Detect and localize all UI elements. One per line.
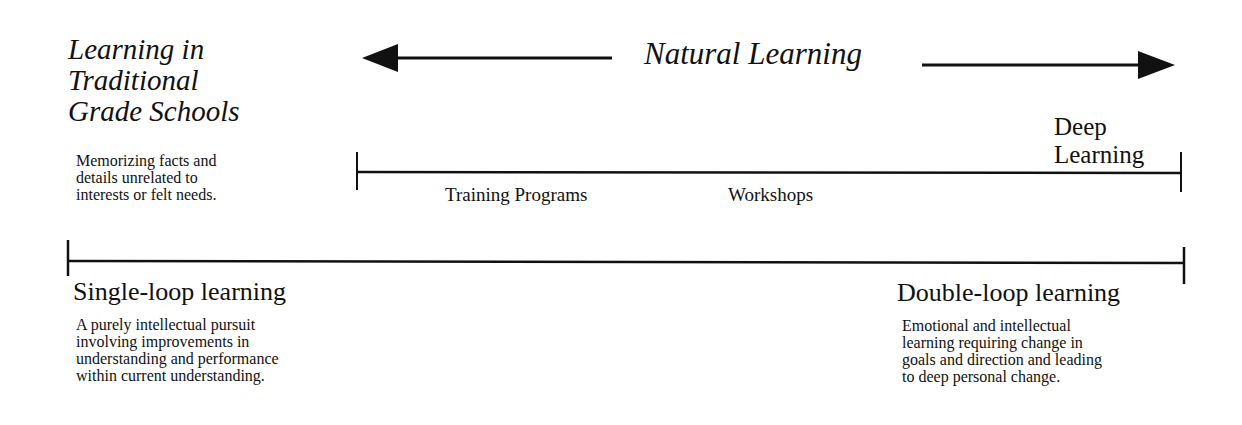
- description-line: learning requiring change in: [902, 334, 1102, 351]
- arrow-right-icon: [922, 51, 1175, 79]
- arrow-left-icon: [362, 44, 612, 72]
- traditional-description: Memorizing facts and details unrelated t…: [76, 152, 216, 203]
- traditional-title-line: Traditional: [68, 65, 240, 96]
- description-line: Memorizing facts and: [76, 152, 216, 169]
- description-line: understanding and performance: [76, 350, 279, 367]
- traditional-title-line: Learning in: [68, 34, 240, 65]
- single-loop-title: Single-loop learning: [73, 278, 286, 306]
- marker-training-programs: Training Programs: [445, 184, 587, 205]
- description-line: involving improvements in: [76, 333, 279, 350]
- description-line: interests or felt needs.: [76, 186, 216, 203]
- description-line: goals and direction and leading: [902, 351, 1102, 368]
- description-line: to deep personal change.: [902, 368, 1102, 385]
- traditional-title: Learning in Traditional Grade Schools: [68, 34, 240, 127]
- natural-learning-label: Natural Learning: [644, 38, 862, 69]
- marker-workshops: Workshops: [728, 184, 813, 205]
- description-line: details unrelated to: [76, 169, 216, 186]
- description-line: Emotional and intellectual: [902, 317, 1102, 334]
- single-loop-description: A purely intellectual pursuit involving …: [76, 316, 279, 384]
- deep-learning-label: Deep Learning: [1054, 113, 1144, 169]
- description-line: A purely intellectual pursuit: [76, 316, 279, 333]
- deep-learning-line: Learning: [1054, 141, 1144, 169]
- description-line: within current understanding.: [76, 367, 279, 384]
- traditional-title-line: Grade Schools: [68, 96, 240, 127]
- double-loop-description: Emotional and intellectual learning requ…: [902, 317, 1102, 385]
- double-loop-title: Double-loop learning: [897, 279, 1120, 307]
- deep-learning-line: Deep: [1054, 113, 1144, 141]
